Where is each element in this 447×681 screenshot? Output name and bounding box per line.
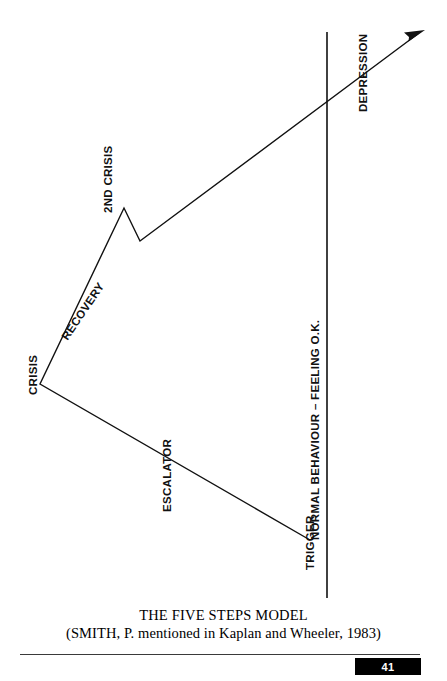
figure-label-2nd-crisis: 2ND CRISIS <box>103 145 115 213</box>
page-number: 41 <box>355 658 421 675</box>
caption-source: (SMITH, P. mentioned in Kaplan and Wheel… <box>0 624 447 642</box>
footer-divider <box>20 654 420 655</box>
figure-label-depression: DEPRESSION <box>358 34 370 112</box>
caption-title: THE FIVE STEPS MODEL <box>0 606 447 624</box>
figure-caption: THE FIVE STEPS MODEL (SMITH, P. mentione… <box>0 606 447 642</box>
arrow-head-icon <box>404 30 425 42</box>
figure-label-normal-behaviour: NORMAL BEHAVIOUR – FEELING O.K. <box>310 320 322 540</box>
figure-drawing <box>0 0 447 600</box>
figure-label-escalator: ESCALATOR <box>162 439 174 512</box>
figure-label-crisis: CRISIS <box>28 355 40 395</box>
figure-five-steps-model: CRISIS RECOVERY 2ND CRISIS ESCALATOR TRI… <box>0 0 447 600</box>
page: CRISIS RECOVERY 2ND CRISIS ESCALATOR TRI… <box>0 0 447 681</box>
